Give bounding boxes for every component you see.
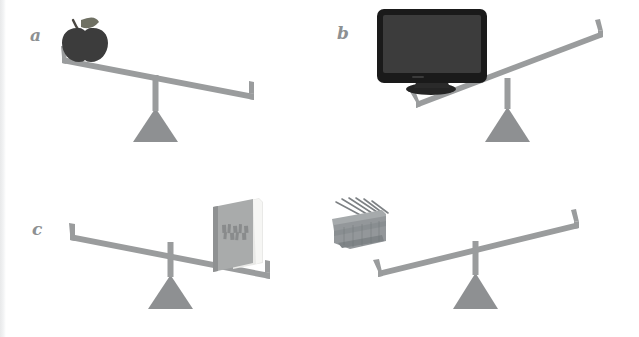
monitor-icon bbox=[377, 9, 487, 95]
panel-c: c bbox=[0, 169, 319, 337]
panel-d-scene bbox=[320, 169, 639, 337]
panel-b-scene bbox=[320, 0, 639, 168]
fulcrum-a bbox=[133, 75, 178, 142]
balance-c-svg bbox=[0, 169, 319, 337]
panel-a: a bbox=[0, 0, 319, 168]
balance-a-svg bbox=[0, 0, 319, 168]
balance-b-svg bbox=[320, 0, 639, 168]
panel-c-scene bbox=[0, 169, 319, 337]
panel-d: d bbox=[320, 169, 639, 337]
panel-a-scene bbox=[0, 0, 319, 168]
apple-icon bbox=[62, 17, 108, 62]
basket-icon bbox=[332, 198, 388, 249]
panel-b: b bbox=[320, 0, 639, 168]
fulcrum-b bbox=[485, 78, 530, 142]
book-icon bbox=[213, 198, 263, 272]
balance-figure: a b bbox=[0, 0, 639, 337]
balance-d-svg bbox=[320, 169, 639, 337]
